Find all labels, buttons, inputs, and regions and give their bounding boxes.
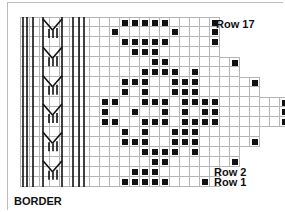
row-17-label: Row 17: [216, 19, 255, 30]
border-label: BORDER: [14, 195, 62, 207]
row-1-label: Row 1: [214, 177, 246, 188]
